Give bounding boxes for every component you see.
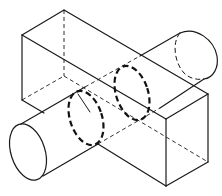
- axis-tick: [78, 94, 90, 112]
- prism-visible-edges: [22, 10, 208, 186]
- intersection-diagram: Isometric line drawing of a cylinder pas…: [0, 0, 222, 196]
- rectangular-prism: [22, 10, 208, 186]
- intersection-curve-right: [108, 61, 156, 124]
- cylinder-right-end-hidden: [175, 33, 204, 79]
- cylinder-right-end-visible: [180, 31, 217, 79]
